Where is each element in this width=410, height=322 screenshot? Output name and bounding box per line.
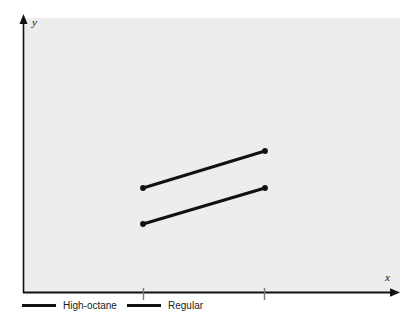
legend-label: High-octane bbox=[63, 300, 117, 311]
chart-canvas: y x High-octane Regular bbox=[0, 0, 410, 322]
legend-item-high-octane: High-octane bbox=[22, 300, 117, 311]
data-point-marker bbox=[140, 221, 146, 227]
legend-item-regular: Regular bbox=[127, 300, 204, 311]
x-axis-label: x bbox=[384, 271, 390, 283]
data-point-marker bbox=[140, 185, 146, 191]
plot-background bbox=[23, 18, 400, 293]
y-axis-label: y bbox=[31, 16, 37, 28]
legend-label: Regular bbox=[168, 300, 204, 311]
chart-legend: High-octane Regular bbox=[22, 300, 204, 311]
data-point-marker bbox=[262, 148, 268, 154]
data-point-marker bbox=[262, 185, 268, 191]
chart-figure: y x High-octane Regular bbox=[0, 0, 410, 322]
